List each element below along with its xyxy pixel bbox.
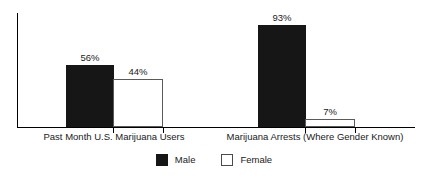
bar-female-group-0[interactable] — [113, 79, 163, 127]
grouped-bar-chart: 56% 44% Past Month U.S. Marijuana Users … — [0, 0, 428, 180]
bar-female-group-1[interactable] — [305, 119, 355, 127]
legend-item-male[interactable]: Male — [156, 154, 196, 166]
category-label-0: Past Month U.S. Marijuana Users — [14, 131, 214, 143]
legend-item-female[interactable]: Female — [221, 154, 272, 166]
bar-value-label-male-group-0: 56% — [66, 52, 114, 63]
y-axis-line — [17, 13, 18, 128]
category-label-1: Marijuana Arrests (Where Gender Known) — [207, 131, 423, 143]
filled-square-icon — [156, 154, 168, 166]
outlined-square-icon — [221, 154, 233, 166]
chart-legend: Male Female — [0, 154, 428, 166]
bar-male-group-0[interactable] — [66, 65, 114, 127]
legend-label-male: Male — [175, 154, 196, 166]
bar-value-label-female-group-1: 7% — [305, 106, 355, 117]
bar-value-label-female-group-0: 44% — [113, 66, 163, 77]
bar-male-group-1[interactable] — [258, 25, 306, 127]
legend-label-female: Female — [240, 154, 272, 166]
bar-value-label-male-group-1: 93% — [258, 12, 306, 23]
